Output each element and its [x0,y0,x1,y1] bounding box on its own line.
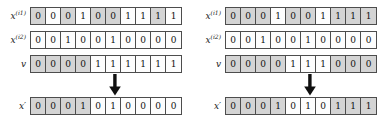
row-label-prime: ′ [24,101,26,111]
left-crossover-example: x(i1)0001001111x(i2)0010010000v000011111… [0,0,195,124]
bit-cell: 0 [226,98,241,114]
bit-cell: 0 [31,98,46,114]
bit-cell: 1 [106,32,121,48]
down-arrow-icon [108,74,122,96]
bit-cell: 0 [346,32,361,48]
bit-cell: 0 [61,56,76,72]
bit-cell: 0 [226,32,241,48]
bitstring-row-parent-2: x(i2)0010010000 [195,30,377,50]
crossover-diagram: x(i1)0001001111x(i2)0010010000v000011111… [0,0,390,124]
bit-cell: 1 [121,56,136,72]
bit-cell: 1 [271,98,286,114]
bit-cell: 1 [151,56,166,72]
bit-cell: 0 [331,56,346,72]
bit-cell: 0 [166,98,181,114]
bit-cell: 0 [226,8,241,24]
bit-cell: 1 [136,8,151,24]
bit-cell: 0 [271,56,286,72]
bitstring-row-mask: v0000111000 [195,54,377,74]
bit-cell: 1 [166,56,181,72]
row-label-superscript: (i2) [16,33,26,40]
bit-cell: 1 [316,56,331,72]
bit-cell: 1 [76,98,91,114]
bitstring-row-parent-1: x(i1)0001001111 [195,6,377,26]
bit-cell: 0 [91,98,106,114]
bit-cell: 0 [31,8,46,24]
bit-cell: 1 [271,8,286,24]
bit-cell: 1 [106,56,121,72]
bit-cells: 0010010000 [225,31,377,49]
bit-cell: 0 [61,8,76,24]
row-label-superscript: (i2) [211,33,221,40]
bit-cell: 0 [151,32,166,48]
bit-cell: 1 [136,56,151,72]
row-label-mask: v [0,60,30,69]
bit-cell: 1 [301,56,316,72]
bit-cell: 0 [76,32,91,48]
bit-cell: 0 [286,32,301,48]
row-label-parent-2: x(i2) [195,36,225,45]
right-crossover-example: x(i1)0001001111x(i2)0010010000v000011100… [195,0,390,124]
row-label-mask: v [195,60,225,69]
bit-cell: 1 [316,8,331,24]
row-label-parent-1: x(i1) [0,12,30,21]
bit-cell: 0 [316,98,331,114]
bit-cells: 0001001111 [30,7,182,25]
bit-cell: 0 [241,8,256,24]
bit-cell: 1 [331,98,346,114]
bit-cell: 0 [61,98,76,114]
row-label-offspring: x′ [0,102,30,111]
bitstring-row-mask: v0000111111 [0,54,182,74]
bit-cell: 0 [361,56,376,72]
bit-cells: 0000111000 [225,55,377,73]
bitstring-row-offspring: x′0001010000 [0,96,182,116]
row-label-offspring: x′ [195,102,225,111]
bit-cell: 0 [361,32,376,48]
bit-cell: 1 [361,8,376,24]
bit-cell: 0 [256,98,271,114]
bit-cell: 0 [151,98,166,114]
bit-cell: 0 [91,8,106,24]
bit-cell: 1 [286,56,301,72]
bit-cell: 0 [106,8,121,24]
bit-cell: 0 [121,32,136,48]
bit-cell: 1 [346,8,361,24]
row-label-parent-2: x(i2) [0,36,30,45]
bit-cell: 0 [316,32,331,48]
bit-cell: 1 [346,98,361,114]
bit-cells: 0001010111 [225,97,377,115]
bit-cell: 0 [46,32,61,48]
bit-cell: 0 [271,32,286,48]
bit-cells: 0010010000 [30,31,182,49]
bit-cell: 0 [136,98,151,114]
bit-cell: 0 [241,32,256,48]
bit-cell: 0 [346,56,361,72]
bit-cell: 0 [46,56,61,72]
bitstring-row-offspring: x′0001010111 [195,96,377,116]
row-label-parent-1: x(i1) [195,12,225,21]
bit-cells: 0000111111 [30,55,182,73]
row-label-superscript: (i1) [211,9,221,16]
bit-cell: 0 [301,8,316,24]
bit-cell: 1 [166,8,181,24]
bit-cell: 0 [91,32,106,48]
bit-cell: 1 [61,32,76,48]
bit-cell: 1 [91,56,106,72]
bit-cell: 1 [331,8,346,24]
bit-cell: 1 [151,8,166,24]
bit-cell: 1 [256,32,271,48]
bit-cell: 0 [76,56,91,72]
bit-cell: 0 [286,98,301,114]
bit-cells: 0001010000 [30,97,182,115]
bit-cell: 1 [301,98,316,114]
down-arrow-icon [303,74,317,96]
bitstring-row-parent-1: x(i1)0001001111 [0,6,182,26]
bit-cells: 0001001111 [225,7,377,25]
row-label-prime: ′ [219,101,221,111]
bit-cell: 0 [241,98,256,114]
bit-cell: 0 [241,56,256,72]
bit-cell: 0 [46,8,61,24]
bit-cell: 0 [31,32,46,48]
bit-cell: 0 [166,32,181,48]
bit-cell: 0 [31,56,46,72]
